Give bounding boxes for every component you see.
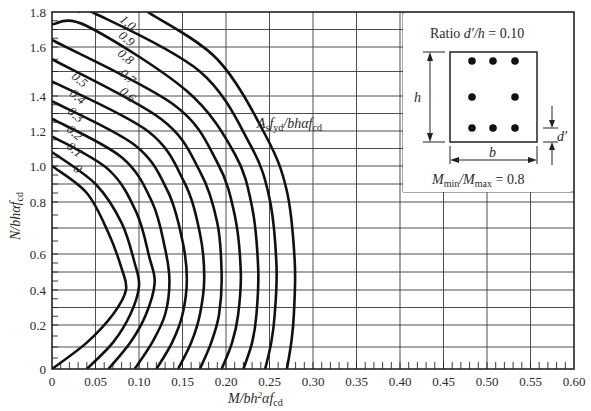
y-tick-label: 0.6 — [30, 247, 47, 262]
b-label: b — [489, 145, 496, 160]
interaction-curves — [52, 9, 295, 369]
interaction-diagram: 00.10.20.30.40.50.60.70.80.91.0 00.050.1… — [0, 0, 591, 411]
family-label: Asfyd/bhαfcd — [256, 116, 322, 133]
curve-label: 0.3 — [65, 104, 87, 126]
y-tick-label: 1.8 — [30, 5, 46, 20]
curve-label: 0.7 — [117, 66, 139, 88]
h-label: h — [414, 90, 421, 105]
y-tick-labels: 00.20.40.60.81.01.21.41.61.8 — [30, 5, 47, 377]
y-tick-label: 0.8 — [30, 195, 46, 210]
y-tick-label: 1.0 — [30, 159, 46, 174]
y-tick-label: 0.4 — [30, 283, 47, 298]
x-tick-label: 0.10 — [128, 374, 151, 389]
x-tick-label: 0.30 — [302, 374, 325, 389]
curve-1.0 — [148, 12, 295, 369]
y-tick-label: 0.2 — [30, 318, 46, 333]
x-axis-title: M/bh2αfcd — [227, 390, 283, 408]
d-prime-label: d′ — [557, 129, 568, 144]
x-tick-label: 0.50 — [476, 374, 499, 389]
x-tick-label: 0.55 — [519, 374, 542, 389]
x-tick-label: 0.35 — [345, 374, 368, 389]
curve-label: 0.2 — [64, 122, 86, 144]
x-tick-label: 0.45 — [432, 374, 455, 389]
curve-0.3 — [52, 119, 169, 369]
x-tick-label: 0.05 — [84, 374, 107, 389]
y-tick-label: 1.4 — [30, 89, 47, 104]
curve-labels: 00.10.20.30.40.50.60.70.80.91.0 — [64, 12, 139, 177]
x-tick-label: 0.25 — [258, 374, 281, 389]
x-tick-label: 0 — [49, 374, 56, 389]
x-tick-label: 0.15 — [171, 374, 194, 389]
y-tick-label: 1.6 — [30, 40, 47, 55]
curve-label: 1.0 — [117, 12, 139, 34]
x-tick-label: 0.40 — [389, 374, 412, 389]
y-tick-label: 0 — [40, 362, 47, 377]
x-tick-labels: 00.050.100.150.200.250.300.350.400.450.5… — [49, 374, 586, 389]
curve-label: 0.8 — [115, 46, 137, 68]
y-tick-label: 1.2 — [30, 124, 46, 139]
inset-ratio-label: Ratio d′/h = 0.10 — [430, 26, 524, 41]
x-tick-label: 0.20 — [215, 374, 238, 389]
x-tick-label: 0.60 — [563, 374, 586, 389]
y-axis-title: N/bhαfcd — [8, 192, 25, 241]
section-inset: Ratio d′/h = 0.10 h b — [403, 14, 571, 192]
